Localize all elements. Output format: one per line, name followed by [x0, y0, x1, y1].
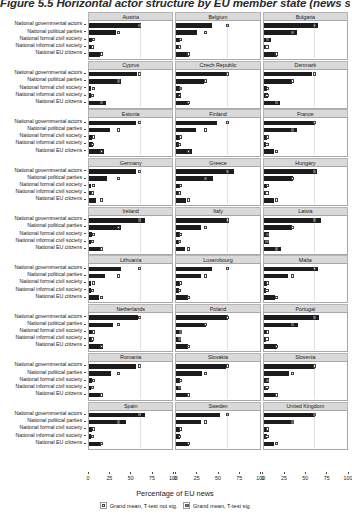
y-axis-tick: [84, 241, 86, 242]
y-axis-tick-label: National governmental actors: [15, 21, 83, 26]
y-axis-tick-label: National EU citizens: [36, 148, 82, 153]
grand-mean-marker-icon: [92, 38, 95, 41]
grand-mean-marker-icon: [179, 38, 182, 41]
bar: [264, 121, 316, 126]
bar-row: [176, 218, 259, 223]
bar-row: [89, 288, 172, 293]
grand-mean-marker-icon: [204, 323, 207, 326]
bar: [176, 198, 186, 203]
bar-row: [264, 149, 347, 154]
panel-luxembourg: Luxembourg: [175, 255, 262, 304]
x-axis-tick-label: 75: [236, 475, 242, 481]
bar-row: [264, 176, 347, 181]
grand-mean-marker-icon: [117, 128, 120, 131]
panel-title-strip: Germany: [88, 158, 173, 166]
panel-denmark: Denmark: [263, 61, 350, 110]
bar-row: [176, 315, 259, 320]
bar-row: [89, 364, 172, 369]
reference-line: [314, 22, 315, 58]
bar: [176, 218, 228, 223]
y-axis-tick: [84, 414, 86, 415]
bar: [264, 176, 293, 181]
y-axis-tick-label: National governmental actors: [15, 265, 83, 270]
grand-mean-marker-icon: [178, 435, 181, 438]
bar: [89, 442, 101, 447]
bar: [176, 413, 220, 418]
y-axis-tick-label: National informal civil society: [16, 189, 82, 194]
reference-line: [227, 168, 228, 204]
bar-row: [264, 101, 347, 106]
bar-row: [176, 38, 259, 43]
y-axis-tick-label: National EU citizens: [36, 196, 82, 201]
y-axis-tick-label: National EU citizens: [36, 440, 82, 445]
grand-mean-marker-icon: [265, 94, 268, 97]
panel-plot: [263, 410, 348, 450]
y-axis-tick-label: National political parties: [27, 272, 82, 277]
grand-mean-marker-icon: [266, 135, 269, 138]
grand-mean-marker-icon: [204, 31, 207, 34]
bar: [264, 315, 320, 320]
panel-plot: [175, 361, 260, 401]
bar-row: [89, 281, 172, 286]
x-axis-column: 0255075100: [88, 472, 173, 486]
bar-row: [89, 184, 172, 189]
panel-portugal: Portugal: [263, 304, 350, 353]
grand-mean-marker-icon: [92, 87, 95, 90]
y-axis-tick-label: National formal civil society: [20, 231, 82, 236]
reference-line: [140, 265, 141, 301]
panel-title-strip: Lithuania: [88, 255, 173, 263]
bar-row: [176, 191, 259, 196]
y-axis-tick-label: National informal civil society: [16, 287, 82, 292]
grand-mean-marker-icon: [187, 198, 190, 201]
bar: [89, 198, 96, 203]
bar-row: [176, 288, 259, 293]
panel-plot: [175, 166, 260, 206]
bar-row: [89, 420, 172, 425]
panel-plot: [88, 20, 173, 60]
panel-title-strip: Latvia: [263, 207, 348, 215]
grand-mean-marker-icon: [266, 233, 269, 236]
panel-austria: Austria: [88, 12, 175, 61]
panel-grid: AustriaBelgiumBulgariaCyprusCzech Republ…: [88, 12, 350, 450]
reference-line: [314, 265, 315, 301]
grand-mean-marker-icon: [275, 52, 278, 55]
bar-row: [264, 142, 347, 147]
bar-row: [176, 267, 259, 272]
bar-row: [176, 93, 259, 98]
y-axis-tick-label: National formal civil society: [20, 425, 82, 430]
bar-row: [264, 274, 347, 279]
grand-mean-marker-icon: [266, 38, 269, 41]
y-axis-tick-label: National EU citizens: [36, 391, 82, 396]
y-axis-tick: [84, 150, 86, 151]
panel-plot: [175, 263, 260, 303]
bar: [89, 52, 100, 57]
grand-mean-marker-icon: [266, 87, 269, 90]
bar-row: [264, 135, 347, 140]
y-axis-tick-label: National governmental actors: [15, 314, 83, 319]
reference-line: [140, 71, 141, 107]
y-axis-tick: [84, 324, 86, 325]
grand-mean-marker-icon: [187, 52, 190, 55]
grand-mean-marker-icon: [179, 184, 182, 187]
bar: [89, 315, 138, 320]
bar-row: [176, 128, 259, 133]
y-axis-tick-label: National governmental actors: [15, 362, 83, 367]
panel-title-strip: Malta: [263, 255, 348, 263]
grand-mean-marker-icon: [117, 79, 120, 82]
bar-row: [264, 38, 347, 43]
bar-row: [264, 86, 347, 91]
reference-line: [227, 314, 228, 350]
x-axis-tick-label: 50: [215, 475, 221, 481]
y-axis-tick: [84, 331, 86, 332]
bar: [264, 79, 292, 84]
panel-plot: [88, 361, 173, 401]
grand-mean-marker-icon: [100, 393, 103, 396]
grand-mean-marker-icon: [265, 45, 268, 48]
bar-row: [176, 364, 259, 369]
y-axis-tick: [84, 365, 86, 366]
bar: [264, 149, 274, 154]
y-axis-tick: [84, 226, 86, 227]
grand-mean-marker-icon: [204, 226, 207, 229]
grand-mean-marker-icon: [291, 177, 294, 180]
bar: [176, 274, 201, 279]
